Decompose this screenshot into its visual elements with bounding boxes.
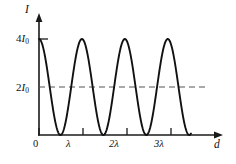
x-tick-label-0: 0 (33, 139, 38, 150)
x-axis-label: d (214, 139, 220, 151)
y-tick-label-4I0: 4I0 (16, 33, 29, 46)
interference-intensity-figure: I d 4I0 2I0 0 λ 2λ 3λ (0, 0, 236, 164)
x-tick-label-lambda: λ (66, 139, 71, 150)
x-tick-label-2lambda: 2λ (109, 139, 119, 150)
y-axis-arrowhead (36, 13, 43, 22)
y-tick-4I0-subscript: 0 (25, 37, 29, 46)
y-tick-2I0-subscript: 0 (25, 86, 29, 95)
x-tick-label-3lambda: 3λ (154, 139, 164, 150)
y-tick-label-2I0: 2I0 (16, 82, 29, 95)
y-axis-label: I (25, 4, 29, 16)
